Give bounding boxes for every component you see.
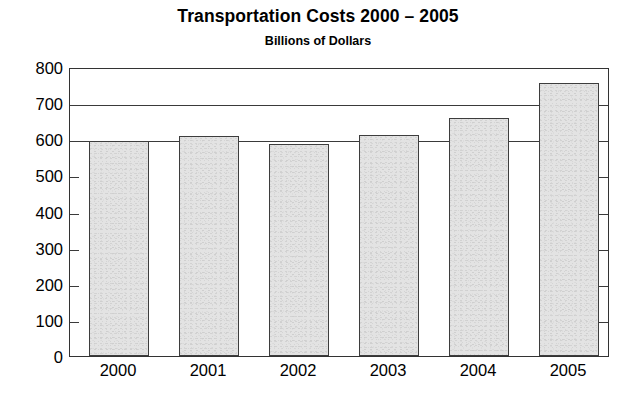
- x-tick-label-2005: 2005: [530, 362, 606, 379]
- gridline-600: [70, 141, 608, 142]
- x-tick-label-2002: 2002: [260, 362, 336, 379]
- y-tick-label-500: 500: [5, 168, 63, 185]
- tick-100-left: [70, 322, 79, 323]
- y-tick-label-600: 600: [5, 132, 63, 149]
- x-tick-label-2003: 2003: [350, 362, 426, 379]
- tick-100-right: [599, 322, 608, 323]
- bar-2004: [449, 118, 509, 356]
- y-tick-label-300: 300: [5, 240, 63, 257]
- bar-chart-figure: Transportation Costs 2000 – 2005 Billion…: [0, 0, 636, 410]
- tick-400-left: [70, 214, 79, 215]
- x-tick-label-2000: 2000: [80, 362, 156, 379]
- chart-subtitle: Billions of Dollars: [0, 34, 636, 48]
- bar-2003: [359, 135, 419, 356]
- bar-2001: [179, 136, 239, 356]
- y-tick-label-0: 0: [5, 349, 63, 366]
- tick-300-right: [599, 250, 608, 251]
- bar-2005: [539, 83, 599, 356]
- tick-200-right: [599, 286, 608, 287]
- tick-500-right: [599, 177, 608, 178]
- tick-300-left: [70, 250, 79, 251]
- y-tick-label-800: 800: [5, 60, 63, 77]
- bar-2000: [89, 141, 149, 356]
- y-tick-label-200: 200: [5, 277, 63, 294]
- chart-title: Transportation Costs 2000 – 2005: [0, 6, 636, 27]
- y-tick-label-700: 700: [5, 96, 63, 113]
- y-tick-label-400: 400: [5, 204, 63, 221]
- y-tick-label-100: 100: [5, 313, 63, 330]
- tick-400-right: [599, 214, 608, 215]
- x-tick-label-2004: 2004: [440, 362, 516, 379]
- gridline-700: [70, 105, 608, 106]
- plot-area: [69, 68, 609, 357]
- bar-2002: [269, 144, 329, 356]
- x-tick-label-2001: 2001: [170, 362, 246, 379]
- tick-500-left: [70, 177, 79, 178]
- tick-200-left: [70, 286, 79, 287]
